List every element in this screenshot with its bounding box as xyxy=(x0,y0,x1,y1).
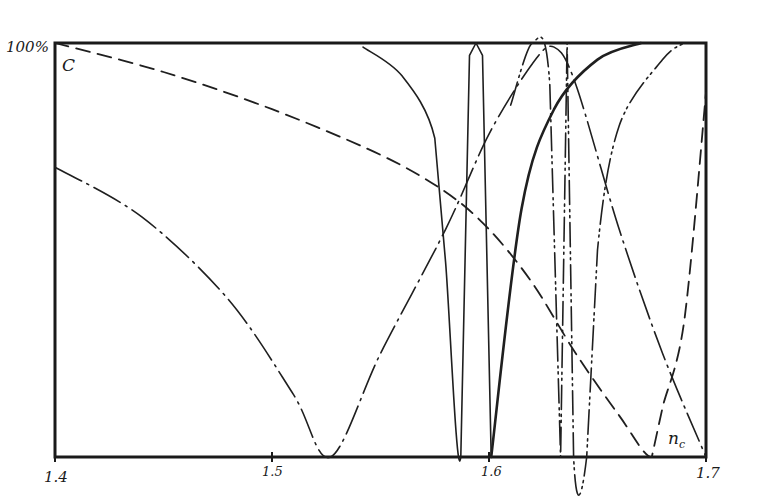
curve-dash-dot xyxy=(55,46,706,457)
y-axis-label: C xyxy=(62,55,75,75)
curve-dashed xyxy=(55,43,706,457)
curve-dash-dot-dot xyxy=(511,37,685,495)
x-tick-1-4: 1.4 xyxy=(44,468,68,486)
curve-solid-thin xyxy=(363,43,491,461)
y-max-label: 100% xyxy=(6,38,49,56)
x-axis-label-sub: c xyxy=(679,438,685,451)
curves xyxy=(55,37,706,495)
x-tick-1-6: 1.6 xyxy=(481,464,502,479)
x-axis-label: nc xyxy=(668,428,685,451)
x-tick-1-7: 1.7 xyxy=(696,464,720,482)
chart-canvas xyxy=(0,0,769,498)
plot-frame xyxy=(55,43,706,457)
x-tick-1-5: 1.5 xyxy=(262,464,283,479)
x-axis-label-main: n xyxy=(668,428,679,448)
